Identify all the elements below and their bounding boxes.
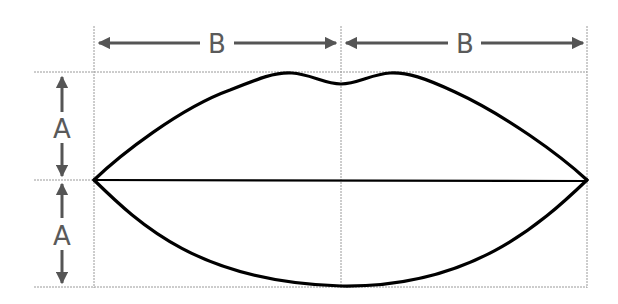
lip-center-line [96, 180, 585, 181]
label-b-left: B [208, 29, 226, 59]
label-a-top: A [53, 114, 71, 144]
label-b-right: B [456, 29, 474, 59]
guide-lines [34, 26, 587, 288]
lip-proportion-diagram: B B A A [0, 0, 618, 304]
label-a-bottom: A [53, 221, 71, 251]
